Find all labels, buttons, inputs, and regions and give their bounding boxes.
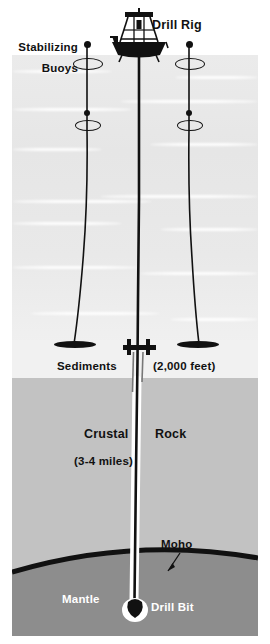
label-drill-bit: Drill Bit [151,601,194,613]
label-sediments-depth: (2,000 feet) [153,360,215,372]
label-rock: Rock [155,427,186,441]
label-stabilizing-buoys-line1: Stabilizing [0,41,78,53]
drill-string [0,0,270,644]
wellhead-stub-right [146,339,150,355]
label-drill-rig: Drill Rig [152,18,202,32]
label-stabilizing-buoys-line2: Buoys [0,62,78,74]
label-crustal: Crustal [84,427,128,441]
diagram-canvas: Drill Rig Stabilizing Buoys Sediments (2… [0,0,270,644]
wellhead-stub-left [127,339,131,355]
label-crustal-depth: (3-4 miles) [74,455,133,467]
label-moho: Moho [161,538,192,550]
label-mantle: Mantle [62,593,100,605]
label-sediments: Sediments [57,360,117,372]
